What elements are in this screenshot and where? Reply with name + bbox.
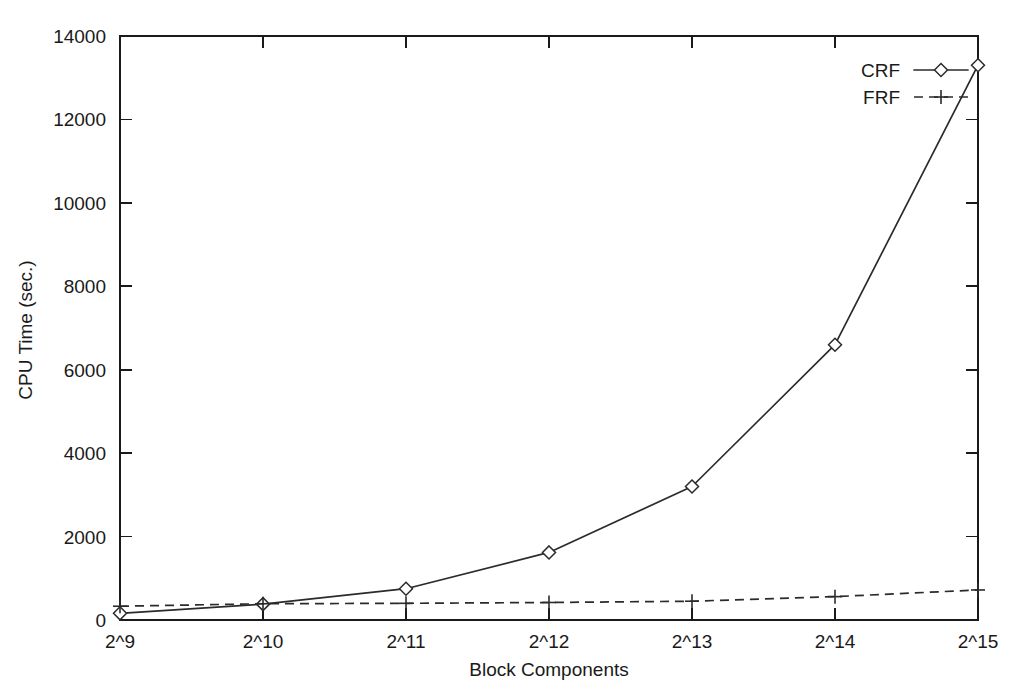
line-chart: 02000400060008000100001200014000 2^92^10… <box>0 0 1028 692</box>
y-tick-label: 0 <box>95 610 106 631</box>
y-tick-label: 2000 <box>64 527 106 548</box>
y-tick-label: 12000 <box>53 109 106 130</box>
legend-label-crf: CRF <box>861 60 900 81</box>
x-tick-label: 2^9 <box>105 631 135 652</box>
x-tick-label: 2^15 <box>958 631 999 652</box>
x-tick-label: 2^10 <box>243 631 284 652</box>
y-tick-label: 10000 <box>53 193 106 214</box>
x-tick-label: 2^11 <box>386 631 425 652</box>
x-tick-label: 2^12 <box>529 631 570 652</box>
legend-label-frf: FRF <box>863 87 900 108</box>
x-axis-title: Block Components <box>469 659 628 680</box>
y-tick-label: 4000 <box>64 443 106 464</box>
x-tick-label: 2^14 <box>815 631 856 652</box>
y-tick-label: 6000 <box>64 360 106 381</box>
chart-figure: 02000400060008000100001200014000 2^92^10… <box>0 0 1028 692</box>
y-tick-label: 8000 <box>64 276 106 297</box>
y-tick-label: 14000 <box>53 26 106 47</box>
y-axis-title: CPU Time (sec.) <box>15 260 36 399</box>
x-tick-label: 2^13 <box>672 631 713 652</box>
